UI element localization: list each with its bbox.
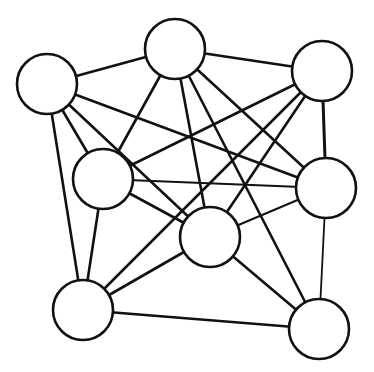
node-h [289,299,349,359]
node-f [180,207,240,267]
node-e [296,158,356,218]
node-a [17,54,77,114]
node-g [53,280,113,340]
node-d [73,149,133,209]
node-c [292,41,352,101]
graph-diagram [0,0,374,372]
node-b [145,19,205,79]
